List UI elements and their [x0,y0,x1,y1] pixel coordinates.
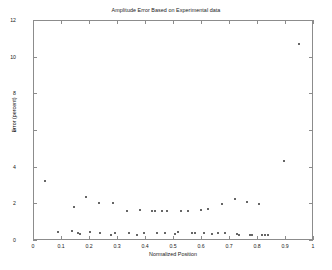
data-point [264,234,266,236]
x-tick-mark [117,236,118,240]
data-point [200,209,202,211]
x-tick-mark-top [117,20,118,24]
x-tick-mark-top [145,20,146,24]
x-tick-label: 0.3 [102,243,132,249]
data-point [161,210,163,212]
data-point [217,232,219,234]
x-tick-mark-top [61,20,62,24]
data-point [251,234,253,236]
data-point [238,234,240,236]
data-point [203,232,205,234]
x-tick-mark-top [229,20,230,24]
data-point [261,234,263,236]
data-point [128,232,130,234]
y-tick-mark-right [309,167,313,168]
y-tick-mark-right [309,130,313,131]
x-axis-label: Normalized Position [33,251,313,257]
x-tick-mark [33,236,34,240]
chart-title: Amplitude Error Based on Experimental da… [0,7,332,13]
x-tick-label: 0.5 [158,243,188,249]
x-tick-mark [285,236,286,240]
data-point [221,203,223,205]
data-point [224,232,226,234]
x-tick-mark-top [173,20,174,24]
data-point [136,234,138,236]
data-point [98,202,100,204]
data-point [156,232,158,234]
x-tick-mark [313,236,314,240]
y-tick-mark [33,57,37,58]
data-point [166,210,168,212]
data-point [180,210,182,212]
x-tick-label: 0.6 [186,243,216,249]
data-point [139,209,141,211]
x-tick-mark [173,236,174,240]
data-point [44,180,46,182]
data-point [234,198,236,200]
y-tick-label: 0 [0,237,16,243]
data-point [258,203,260,205]
data-point [71,230,73,232]
data-point [246,201,248,203]
data-point [79,233,81,235]
y-tick-mark [33,93,37,94]
data-point [174,233,176,235]
x-tick-mark-top [201,20,202,24]
data-point [126,210,128,212]
data-point [283,160,285,162]
data-point [211,233,213,235]
x-tick-label: 0 [18,243,48,249]
y-tick-mark [33,203,37,204]
x-tick-mark [201,236,202,240]
y-tick-label: 4 [0,164,16,170]
x-tick-mark [89,236,90,240]
x-tick-mark-top [257,20,258,24]
data-point [85,196,87,198]
chart-figure: Amplitude Error Based on Experimental da… [0,0,332,270]
data-point [187,210,189,212]
data-point [57,231,59,233]
data-point [298,43,300,45]
y-tick-mark-right [309,240,313,241]
x-tick-label: 0.2 [74,243,104,249]
x-tick-label: 0.1 [46,243,76,249]
data-point [194,232,196,234]
x-tick-mark [145,236,146,240]
x-tick-label: 1 [298,243,328,249]
data-point [151,210,153,212]
x-tick-label: 0.8 [242,243,272,249]
y-tick-mark-right [309,57,313,58]
data-point [110,234,112,236]
data-point [177,231,179,233]
plot-area [33,20,313,240]
y-tick-label: 2 [0,200,16,206]
x-tick-mark-top [89,20,90,24]
x-tick-mark-top [313,20,314,24]
data-point [207,208,209,210]
data-point [154,210,156,212]
x-tick-mark-top [33,20,34,24]
y-tick-mark [33,240,37,241]
y-tick-mark-right [309,93,313,94]
x-tick-label: 0.4 [130,243,160,249]
data-point [73,206,75,208]
data-point [267,234,269,236]
x-tick-mark-top [285,20,286,24]
x-tick-mark [229,236,230,240]
data-point [99,232,101,234]
y-axis-label: Error (percent) [11,75,17,155]
x-tick-label: 0.9 [270,243,300,249]
data-point [112,202,114,204]
y-tick-label: 12 [0,17,16,23]
data-point [89,231,91,233]
x-tick-label: 0.7 [214,243,244,249]
y-tick-label: 10 [0,54,16,60]
y-tick-mark [33,167,37,168]
y-tick-mark [33,130,37,131]
data-point [164,232,166,234]
y-tick-mark-right [309,203,313,204]
x-tick-mark [257,236,258,240]
x-tick-mark [61,236,62,240]
data-point [143,232,145,234]
data-point [114,232,116,234]
